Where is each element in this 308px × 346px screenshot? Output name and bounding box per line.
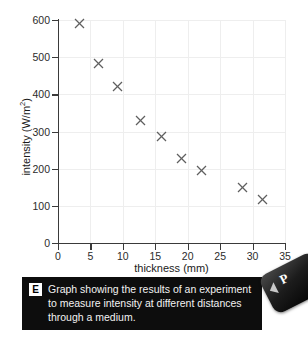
chevron-left-icon: [267, 282, 279, 296]
data-point-marker: [135, 115, 146, 126]
data-point-marker: [74, 18, 85, 29]
y-axis-tick: [52, 94, 58, 95]
y-axis-tick: [52, 206, 58, 207]
y-axis-tick: [52, 243, 58, 244]
x-axis-tick-label: 15: [142, 251, 168, 262]
data-point-marker: [237, 182, 248, 193]
gridline-vertical: [285, 20, 286, 243]
y-axis-tick: [52, 57, 58, 58]
y-axis-title-exponent: 2: [18, 102, 27, 106]
data-point-marker: [176, 153, 187, 164]
y-axis-tick-label: 600: [10, 15, 50, 26]
y-axis-tick-label: 100: [10, 201, 50, 212]
y-axis-tick-label: 200: [10, 164, 50, 175]
figure-scatter-intensity-vs-thickness: thickness (mm) intensity (W/m2) E Graph …: [0, 0, 308, 346]
y-axis-tick: [52, 132, 58, 133]
y-axis-tick-label: 0: [10, 238, 50, 249]
x-axis-tick-label: 25: [207, 251, 233, 262]
data-point-marker: [93, 58, 104, 69]
gridline-horizontal: [58, 94, 285, 95]
x-axis-tick-label: 20: [175, 251, 201, 262]
data-point-marker: [112, 81, 123, 92]
y-axis-tick-label: 400: [10, 89, 50, 100]
x-axis-title: thickness (mm): [58, 262, 285, 274]
y-axis-tick-label: 300: [10, 127, 50, 138]
gridline-horizontal: [58, 132, 285, 133]
caption-badge: E: [29, 283, 42, 296]
caption-text: Graph showing the results of an experime…: [48, 282, 256, 324]
x-axis-tick-label: 30: [240, 251, 266, 262]
data-point-marker: [196, 165, 207, 176]
y-axis-tick: [52, 169, 58, 170]
gridline-horizontal: [58, 206, 285, 207]
data-point-marker: [257, 194, 268, 205]
plot-area: [58, 20, 285, 243]
y-axis-tick: [52, 20, 58, 21]
x-axis-tick-label: 10: [110, 251, 136, 262]
corner-tab-label: P: [277, 270, 291, 288]
y-axis-tick-label: 500: [10, 52, 50, 63]
x-axis-tick-label: 0: [45, 251, 71, 262]
x-axis-tick-label: 5: [77, 251, 103, 262]
data-point-marker: [156, 131, 167, 142]
caption-bar: E Graph showing the results of an experi…: [22, 277, 262, 330]
x-axis-tick-label: 35: [272, 251, 298, 262]
gridline-horizontal: [58, 169, 285, 170]
y-axis-line: [58, 19, 59, 244]
gridline-horizontal: [58, 20, 285, 21]
